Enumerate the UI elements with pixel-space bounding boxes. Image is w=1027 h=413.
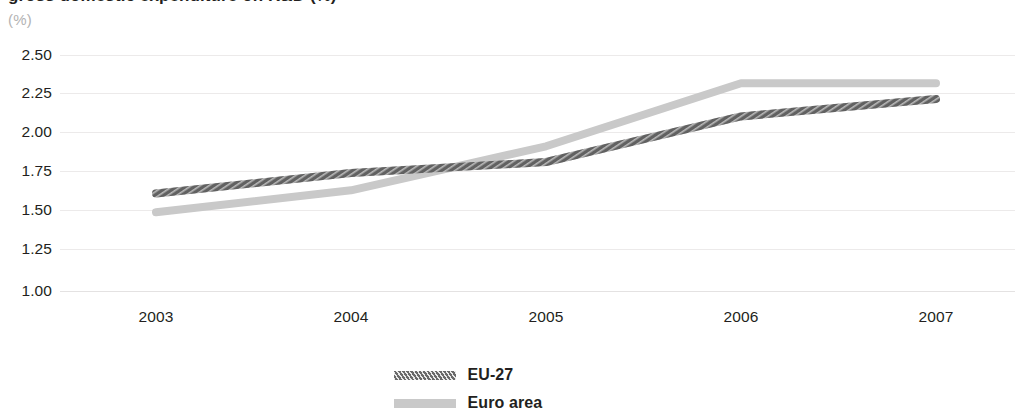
chart-container: gross domestic expenditure on R&D (%) (%… [0,0,1027,413]
legend-label-eu-27: EU-27 [468,366,514,384]
y-tick-label: 2.00 [6,123,52,141]
x-tick-label: 2007 [919,308,954,326]
chart-title: gross domestic expenditure on R&D (%) [8,0,628,8]
x-tick-label: 2005 [529,308,564,326]
x-tick-label: 2003 [139,308,174,326]
y-axis: 2.50 2.25 2.00 1.75 1.50 1.25 1.00 [0,55,52,302]
gridline-1-50 [60,210,1015,211]
y-tick-label: 2.25 [6,84,52,102]
x-tick-label: 2006 [724,308,759,326]
gridline-1-25 [60,249,1015,250]
gridline-2-25 [60,93,1015,94]
y-axis-unit-label: (%) [8,11,32,28]
y-tick-label: 1.75 [6,162,52,180]
legend-item-eu-27[interactable]: EU-27 [0,362,1027,388]
gridline-1-75 [60,171,1015,172]
y-tick-label: 1.00 [6,282,52,300]
gridline-2-00 [60,132,1015,133]
gridline-2-50 [60,55,1015,56]
y-tick-label: 1.25 [6,240,52,258]
plot-area [60,55,1015,302]
y-tick-label: 2.50 [6,46,52,64]
gridline-1-00 [60,291,1015,292]
legend-label-euro-area: Euro area [468,394,543,412]
legend-item-euro-area[interactable]: Euro area [0,390,1027,413]
legend-swatch-euro-area [394,399,456,408]
y-tick-label: 1.50 [6,201,52,219]
x-tick-label: 2004 [334,308,369,326]
legend-swatch-eu-27 [394,371,456,380]
